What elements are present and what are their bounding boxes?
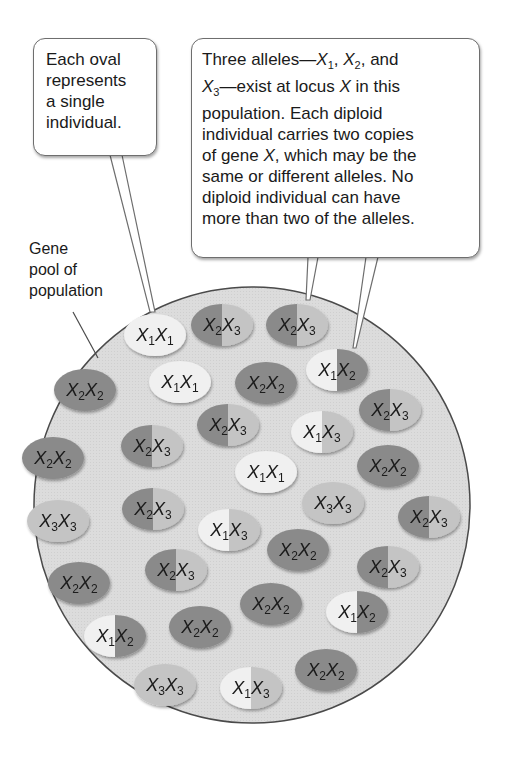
callout-line: individual. [46, 112, 144, 133]
label-line: Gene [29, 238, 103, 259]
individual-oval: X2X2 [54, 369, 116, 411]
individual-oval: X3X3 [134, 664, 196, 706]
callout-oval-definition: Each oval represents a single individual… [33, 38, 157, 156]
text: X [343, 50, 354, 69]
individual-oval: X2X3 [122, 488, 184, 530]
individual-oval: X2X2 [357, 445, 419, 487]
callout-line: represents [46, 70, 144, 91]
individual-oval: X2X3 [121, 425, 183, 467]
individual-oval: X3X3 [27, 500, 89, 542]
text: X [316, 50, 327, 69]
locus-symbol: X [339, 77, 350, 96]
individual-oval: X3X3 [302, 482, 364, 524]
individual-oval: X2X3 [398, 496, 460, 538]
allele-symbol: X2 [343, 50, 360, 69]
callout-line: X3—exist at locus X in this [202, 76, 469, 103]
individual-oval: X1X2 [306, 349, 368, 391]
individual-oval: X1X1 [149, 361, 211, 403]
individual-oval: X2X2 [48, 562, 110, 604]
text: Three alleles— [202, 50, 316, 69]
individual-oval: X2X2 [22, 437, 84, 479]
text: —exist at locus [219, 77, 339, 96]
callout-line: Each oval [46, 49, 144, 70]
callout-line: more than two of the alleles. [202, 208, 469, 229]
text: X [202, 77, 213, 96]
individual-oval: X2X2 [235, 362, 297, 404]
label-line: pool of [29, 259, 103, 280]
gene-pool-label: Gene pool of population [29, 238, 103, 301]
individual-oval: X1X3 [220, 667, 282, 709]
individual-oval: X2X3 [197, 404, 259, 446]
individual-oval: X1X1 [124, 314, 186, 356]
individual-oval: X2X3 [191, 304, 253, 346]
allele-symbol: X3 [202, 77, 219, 96]
individual-oval: X2X2 [240, 583, 302, 625]
callout-line: Three alleles—X1, X2, and [202, 49, 469, 76]
text: of gene [202, 146, 263, 165]
callout-line: same or different alleles. No [202, 166, 469, 187]
individual-oval: X2X2 [267, 529, 329, 571]
individual-oval: X2X3 [266, 304, 328, 346]
callout-line: a single [46, 91, 144, 112]
callout-oval-pointer [110, 155, 155, 312]
individual-oval: X2X2 [169, 606, 231, 648]
text: , [334, 50, 343, 69]
callout-alleles-pointer-1 [306, 257, 318, 300]
label-line: population [29, 280, 103, 301]
callout-line: individual carries two copies [202, 124, 469, 145]
allele-symbol: X1 [316, 50, 333, 69]
individual-oval: X1X3 [291, 411, 353, 453]
individual-oval: X2X3 [145, 549, 207, 591]
individual-oval: X2X3 [359, 389, 421, 431]
individual-oval: X1X2 [326, 591, 388, 633]
text: , which may be the [275, 146, 417, 165]
individual-oval: X1X1 [235, 451, 297, 493]
callout-line: diploid individual can have [202, 187, 469, 208]
text: in this [351, 77, 400, 96]
pool-label-leader [73, 312, 98, 358]
callout-line: population. Each diploid [202, 103, 469, 124]
callout-alleles-explanation: Three alleles—X1, X2, and X3—exist at lo… [191, 38, 480, 258]
individual-oval: X2X3 [357, 546, 419, 588]
individual-oval: X1X2 [84, 615, 146, 657]
individual-oval: X1X3 [198, 509, 260, 551]
gene-symbol: X [263, 146, 274, 165]
text: , and [361, 50, 399, 69]
callout-line: of gene X, which may be the [202, 145, 469, 166]
individual-oval: X2X2 [295, 649, 357, 691]
